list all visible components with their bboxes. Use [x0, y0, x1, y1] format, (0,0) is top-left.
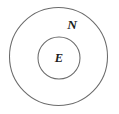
diagram-canvas: N E: [0, 0, 119, 114]
outer-set-label: N: [66, 17, 78, 32]
inner-set-label: E: [54, 51, 63, 65]
euler-diagram-svg: N E: [0, 0, 119, 114]
